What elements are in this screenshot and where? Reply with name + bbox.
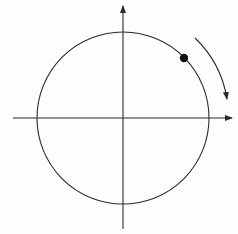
point-on-circle xyxy=(180,54,188,62)
diagram-canvas xyxy=(0,0,238,234)
circle-axes-diagram xyxy=(0,0,238,234)
clockwise-rotation-arrow-icon xyxy=(195,38,227,99)
